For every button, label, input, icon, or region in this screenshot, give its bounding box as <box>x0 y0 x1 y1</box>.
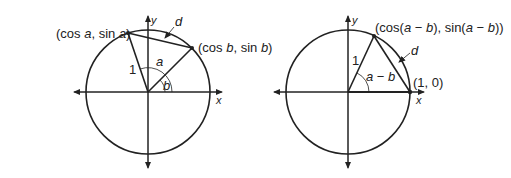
chord-d-label: d <box>175 14 183 29</box>
point-a-minus-b-label: (cos(a − b), sin(a − b)) <box>375 20 504 35</box>
diagram-canvas: y x (cos a, sin a) (cos b, sin b) 1 a b … <box>0 0 511 178</box>
point-a-label: (cos a, sin a) <box>56 26 130 41</box>
chord-d-label: d <box>411 43 419 58</box>
y-axis-label: y <box>150 14 158 26</box>
angle-a-minus-b-label: a − b <box>366 69 395 84</box>
radius-label: 1 <box>352 53 359 68</box>
angle-b-label: b <box>163 78 170 93</box>
left-unit-circle-diagram: y x (cos a, sin a) (cos b, sin b) 1 a b … <box>56 14 272 168</box>
point-b-label: (cos b, sin b) <box>198 40 272 55</box>
point-1-0 <box>408 90 412 94</box>
y-axis-label: y <box>351 14 359 26</box>
x-axis-label: x <box>215 94 222 106</box>
x-axis-label: x <box>415 94 422 106</box>
d-pointer <box>399 53 410 62</box>
right-unit-circle-diagram: y x (cos(a − b), sin(a − b)) (1, 0) 1 a … <box>274 14 504 168</box>
radius-label: 1 <box>129 62 136 77</box>
point-b <box>190 46 194 50</box>
angle-a-label: a <box>156 54 163 69</box>
point-1-0-label: (1, 0) <box>413 75 443 90</box>
